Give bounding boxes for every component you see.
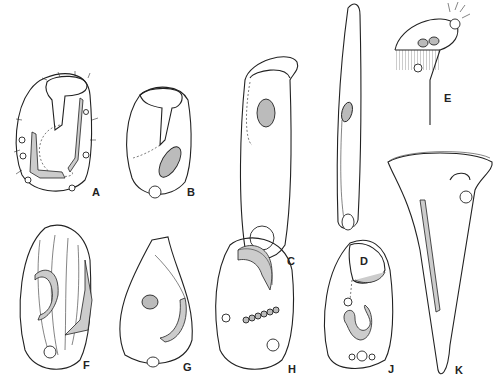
panel-label-b: B (187, 187, 195, 198)
panel-label-e: E (444, 93, 451, 104)
organism-g-drawing (120, 237, 193, 367)
panel-label-j: J (388, 364, 394, 375)
organism-a-drawing (14, 71, 98, 191)
panel-label-a: A (92, 187, 100, 198)
organism-d-drawing (337, 4, 361, 230)
organism-k-drawing (388, 152, 492, 374)
ciliate-illustration-plate (0, 0, 503, 383)
panel-label-h: H (288, 364, 296, 375)
organism-c-drawing (240, 57, 297, 258)
panel-label-d: D (360, 256, 368, 267)
panel-label-g: G (183, 362, 192, 373)
organism-f-drawing (20, 225, 92, 369)
organism-e-drawing (395, 2, 470, 125)
panel-label-c: C (287, 256, 295, 267)
organism-b-drawing (127, 87, 192, 198)
organism-j-drawing (324, 240, 392, 368)
panel-label-f: F (83, 360, 90, 371)
panel-label-k: K (455, 365, 463, 376)
organism-h-drawing (216, 238, 294, 369)
